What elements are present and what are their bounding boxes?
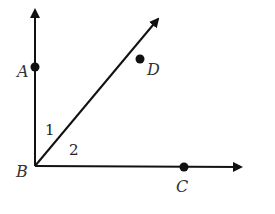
angle-1-label: 1	[45, 121, 55, 139]
angle-diagram: A D C B 1 2	[0, 0, 275, 214]
label-a: A	[15, 62, 29, 81]
label-b: B	[15, 162, 28, 181]
label-d: D	[146, 60, 160, 79]
point-a	[31, 63, 40, 72]
angle-2-label: 2	[69, 141, 79, 159]
point-d	[136, 55, 145, 64]
label-c: C	[176, 177, 188, 196]
ray-bc	[35, 166, 241, 167]
ray-bd	[35, 19, 158, 166]
point-c	[180, 163, 189, 172]
